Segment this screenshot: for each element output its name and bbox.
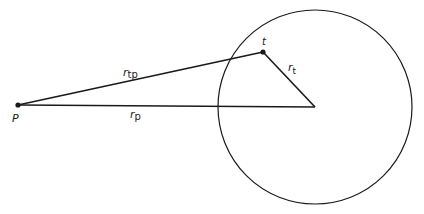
point-p-dot <box>15 102 20 107</box>
label-r-p: rp <box>130 108 141 122</box>
label-r-t-sub: t <box>293 66 297 76</box>
label-r-p-sub: p <box>135 111 141 122</box>
point-t-dot <box>260 49 265 54</box>
geometry-diagram: P t rtp rp rt <box>0 0 424 214</box>
point-p-label: P <box>12 112 19 125</box>
segment-r-p <box>18 105 315 107</box>
point-t-label: t <box>262 36 267 47</box>
label-r-t: rt <box>288 61 297 76</box>
label-r-tp: rtp <box>123 66 138 80</box>
segment-r-tp <box>18 52 263 105</box>
label-r-tp-sub: tp <box>128 69 138 80</box>
